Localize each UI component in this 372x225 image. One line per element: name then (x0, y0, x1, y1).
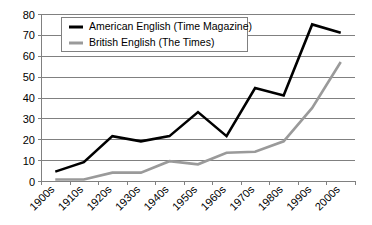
y-tick-label: 20 (23, 134, 35, 146)
y-tick-label: 10 (23, 155, 35, 167)
y-tick-label: 30 (23, 113, 35, 125)
y-tick-label: 50 (23, 71, 35, 83)
y-tick-label: 0 (29, 176, 35, 188)
line-chart: 01020304050607080 1900s1910s1920s1930s19… (0, 0, 372, 225)
y-tick-label: 70 (23, 29, 35, 41)
legend-label-british-english: British English (The Times) (89, 36, 214, 48)
y-tick-label: 80 (23, 9, 35, 21)
legend-label-american-english: American English (Time Magazine) (89, 20, 252, 32)
y-tick-label: 60 (23, 50, 35, 62)
y-tick-label: 40 (23, 92, 35, 104)
chart-legend: American English (Time Magazine)British … (62, 18, 253, 52)
chart-container: 01020304050607080 1900s1910s1920s1930s19… (0, 0, 372, 225)
y-axis: 01020304050607080 (23, 9, 42, 188)
